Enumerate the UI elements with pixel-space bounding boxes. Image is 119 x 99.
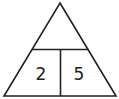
bottom-right-cell-value: 5 [74,64,85,84]
number-bond-triangle: 2 5 [0,0,119,99]
bottom-left-cell-value: 2 [36,64,47,84]
